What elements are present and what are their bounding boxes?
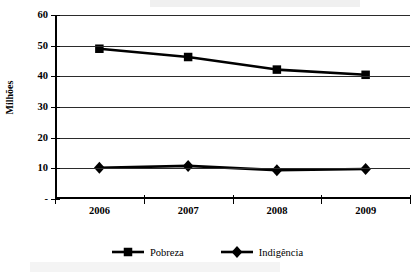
gridline [55,138,410,139]
gridline [55,46,410,47]
scan-artifact-lower [30,262,280,272]
gridline [55,107,410,108]
series-line [99,49,365,75]
y-tick-mark [51,168,60,169]
scan-artifact [150,0,360,7]
y-tick-mark [51,107,60,108]
y-axis-tick-labels: -102030405060 [22,0,48,278]
y-tick-label: 20 [22,133,48,143]
x-tick-mark [144,195,145,204]
x-tick-mark [233,195,234,204]
y-tick-label: 10 [22,163,48,173]
x-tick-mark [321,195,322,204]
data-point-marker [361,71,370,80]
y-axis-title: Milhões [4,68,15,128]
plot-area [55,15,410,199]
data-point-marker [184,53,193,62]
y-tick-label: 40 [22,71,48,81]
y-tick-mark [51,138,60,139]
x-tick-label: 2008 [247,205,307,216]
x-tick-label: 2006 [69,205,129,216]
data-point-marker [271,164,282,176]
data-point-marker [273,65,282,74]
gridline [55,76,410,77]
y-tick-label: 60 [22,10,48,20]
x-tick-label: 2009 [336,205,396,216]
y-tick-mark [51,76,60,77]
legend-label: Indigência [259,247,303,258]
y-tick-label: - [22,194,48,204]
gridline [55,15,410,16]
y-tick-mark [51,46,60,47]
x-tick-mark [410,195,411,204]
y-tick-label: 30 [22,102,48,112]
chart-legend: PobrezaIndigência [0,245,414,259]
legend-label: Pobreza [150,247,184,258]
legend-item[interactable]: Indigência [220,245,303,259]
line-chart: Milhões -102030405060 2006200720082009 P… [0,0,414,278]
legend-item[interactable]: Pobreza [111,245,184,259]
y-tick-mark [51,15,60,16]
legend-diamond-icon [220,245,254,259]
x-tick-mark [55,195,56,204]
x-tick-label: 2007 [158,205,218,216]
legend-square-icon [111,245,145,259]
data-point-marker [183,160,194,172]
y-tick-label: 50 [22,41,48,51]
gridline [55,168,410,169]
x-axis-tick-labels: 2006200720082009 [55,205,410,223]
